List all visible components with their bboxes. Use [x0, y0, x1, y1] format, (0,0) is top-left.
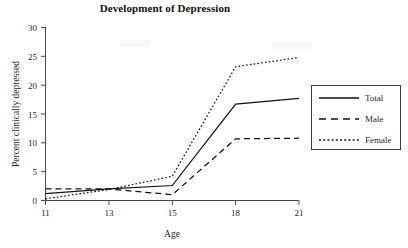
series-line-total [46, 98, 300, 193]
legend-label: Female [365, 135, 392, 145]
y-tick-label: 0 [33, 196, 38, 206]
x-axis-tick-labels: 11 13 15 18 21 [41, 208, 303, 218]
series-line-female [46, 57, 300, 198]
x-axis-title: Age [164, 229, 180, 239]
y-tick-label: 5 [33, 167, 38, 177]
y-axis-tick-labels: 30 25 20 15 10 5 0 [28, 23, 38, 206]
y-axis-title: Percent clinically depressed [11, 61, 21, 167]
chart-legend: Total Male Female [311, 85, 401, 150]
y-tick-label: 15 [28, 110, 38, 120]
y-tick-label: 20 [28, 81, 38, 91]
x-tick-label: 11 [41, 208, 50, 218]
x-tick-label: 13 [104, 208, 114, 218]
y-axis-ticks [41, 28, 46, 201]
solid-line-swatch [317, 93, 361, 103]
legend-entry-male: Male [312, 108, 400, 129]
series-line-male [46, 138, 300, 195]
y-tick-label: 10 [28, 138, 38, 148]
dashed-line-swatch [317, 114, 361, 124]
chart-figure: Development of Depression 30 25 20 15 10… [0, 0, 408, 248]
x-axis-ticks [46, 201, 300, 206]
x-tick-label: 18 [231, 208, 241, 218]
y-tick-label: 30 [28, 23, 38, 33]
x-tick-label: 15 [168, 208, 178, 218]
legend-label: Total [365, 93, 383, 103]
legend-entry-total: Total [312, 87, 400, 108]
y-tick-label: 25 [28, 52, 38, 62]
dotted-line-swatch [317, 135, 361, 145]
x-tick-label: 21 [295, 208, 304, 218]
legend-label: Male [365, 114, 384, 124]
legend-entry-female: Female [312, 129, 400, 150]
